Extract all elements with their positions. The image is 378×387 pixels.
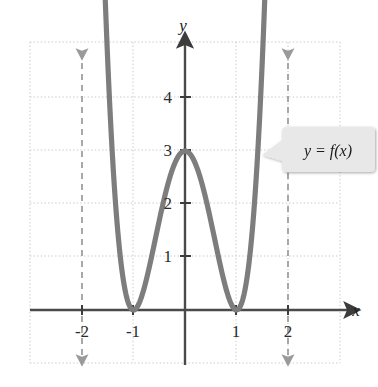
y-tick-label-3: 3 [164,141,173,160]
y-tick-label-1: 1 [164,247,173,266]
y-tick-label-2: 2 [164,194,173,213]
function-graph-figure: -2 -1 1 2 1 2 3 4 y x y = f(x) [0,0,378,387]
coordinate-axes [30,44,348,365]
plot-canvas: -2 -1 1 2 1 2 3 4 y x y = f(x) [0,0,378,387]
y-tick-label-4: 4 [164,88,173,107]
x-axis-label: x [351,301,360,320]
x-tick-label-plus-1: 1 [232,322,241,341]
x-tick-label-minus-2: -2 [75,322,89,341]
y-axis-label: y [177,16,187,35]
x-tick-label-plus-2: 2 [284,322,293,341]
x-tick-label-minus-1: -1 [126,322,140,341]
curve-label-text: y = f(x) [302,142,352,160]
curve-label-callout: y = f(x) [262,127,375,172]
